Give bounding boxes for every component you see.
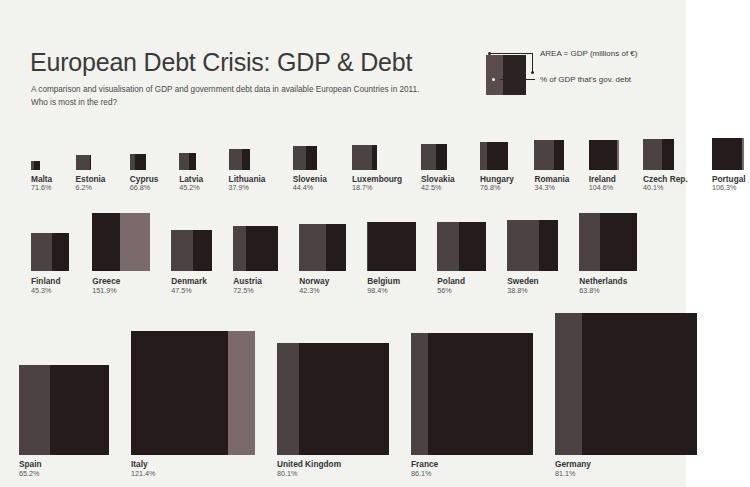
debt-fill (50, 365, 109, 455)
country-cell[interactable]: United Kingdom80.1% (277, 0, 389, 487)
debt-fill (712, 138, 742, 170)
country-name-label: United Kingdom (277, 459, 341, 469)
debt-overflow-fill (228, 331, 255, 455)
debt-fill (582, 313, 697, 455)
country-percent-label: 65.2% (19, 469, 39, 479)
country-name-label: Germany (555, 459, 591, 469)
country-cell[interactable]: Italy121.4% (131, 0, 255, 487)
country-square (19, 365, 109, 455)
country-percent-label: 81.1% (555, 469, 575, 479)
debt-fill (299, 343, 389, 455)
country-name-label: Spain (19, 459, 42, 469)
country-square (277, 343, 389, 455)
country-percent-label: 86.1% (411, 469, 431, 479)
debt-fill (428, 333, 533, 455)
country-cell[interactable]: France86.1% (411, 0, 533, 487)
country-cell[interactable]: Spain65.2% (19, 0, 109, 487)
country-square (411, 333, 533, 455)
country-name-label: Italy (131, 459, 148, 469)
country-percent-label: 80.1% (277, 469, 297, 479)
country-cell[interactable]: Portugal106.3% (712, 0, 750, 487)
country-name-label: France (411, 459, 438, 469)
country-square (131, 331, 255, 455)
country-square (555, 313, 697, 455)
country-square (712, 138, 744, 170)
country-percent-label: 106.3% (712, 183, 736, 193)
country-cell[interactable]: Germany81.1% (555, 0, 697, 487)
country-percent-label: 121.4% (131, 469, 155, 479)
debt-overflow-fill (742, 138, 744, 170)
debt-fill (131, 331, 228, 455)
